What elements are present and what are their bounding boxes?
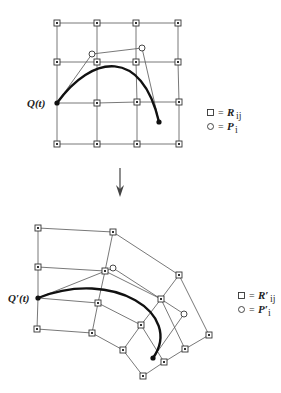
control-point-circle-icon <box>89 51 95 57</box>
legend-square-icon <box>239 293 245 299</box>
bottom-control-polygon <box>38 268 184 358</box>
bezier-grid-deformation-diagram: Q(t) = R ij = P i Q′(t) = R′ ij = P′ i <box>0 0 281 393</box>
legend-circle-icon <box>239 307 245 313</box>
control-point-circle-icon <box>181 311 187 317</box>
legend-sub-i: i <box>235 124 238 135</box>
bottom-lattice-grid <box>37 228 209 376</box>
bottom-legend: = R′ ij = P′ i <box>239 289 276 318</box>
down-arrow-icon <box>116 168 124 197</box>
legend-label-r: R <box>226 106 234 118</box>
curve-endpoint-dot <box>35 295 40 300</box>
legend-circle-icon <box>208 124 214 130</box>
control-point-circle-icon <box>110 265 116 271</box>
control-point-circle-icon <box>139 45 145 51</box>
curve-endpoint-dot <box>150 355 155 360</box>
bottom-curve-label: Q′(t) <box>8 292 29 305</box>
legend-eq: = <box>249 304 255 315</box>
legend-sub-ij: ij <box>236 110 242 121</box>
legend-eq: = <box>249 290 255 301</box>
curve-endpoint-dot <box>156 119 161 124</box>
legend-label-p-prime: P′ <box>258 303 268 315</box>
curve-endpoint-dot <box>54 100 59 105</box>
legend-label-r-prime: R′ <box>257 289 268 301</box>
legend-label-p: P <box>227 120 234 132</box>
top-curve-label: Q(t) <box>27 97 45 110</box>
legend-sub-ij: ij <box>270 293 276 304</box>
top-bezier-curve <box>57 66 159 122</box>
legend-eq: = <box>218 107 224 118</box>
legend-sub-i: i <box>268 307 271 318</box>
top-legend: = R ij = P i <box>208 106 242 135</box>
legend-eq: = <box>218 121 224 132</box>
bottom-lattice-points <box>34 225 212 379</box>
legend-square-icon <box>208 110 214 116</box>
